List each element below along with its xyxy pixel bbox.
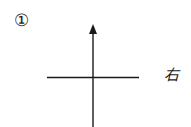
up-arrow-icon [89, 24, 97, 34]
direction-label: 右 [164, 68, 179, 83]
axis-cross-diagram [0, 0, 191, 127]
